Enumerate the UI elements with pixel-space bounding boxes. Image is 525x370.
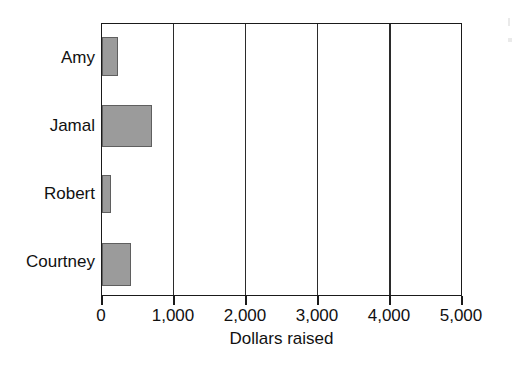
gridline-4000 xyxy=(389,24,390,295)
bar-courtney xyxy=(102,243,131,286)
xtick-mark-5000 xyxy=(461,296,463,305)
bar-amy xyxy=(102,37,118,76)
bar-chart: Amy Jamal Robert Courtney 0 1,000 2,000 … xyxy=(0,0,525,370)
category-axis: Amy Jamal Robert Courtney xyxy=(0,23,95,296)
category-label-jamal: Jamal xyxy=(50,116,95,135)
xtick-label-2000: 2,000 xyxy=(224,306,267,326)
scan-artifact xyxy=(508,18,510,26)
category-label-courtney: Courtney xyxy=(26,252,95,271)
xtick-mark-2000 xyxy=(245,296,247,305)
bar-robert xyxy=(102,175,111,213)
xtick-label-0: 0 xyxy=(96,306,105,326)
xtick-mark-0 xyxy=(101,296,103,305)
x-axis-title: Dollars raised xyxy=(101,329,462,349)
gridline-1000 xyxy=(173,24,174,295)
gridline-2000 xyxy=(245,24,246,295)
bar-jamal xyxy=(102,105,152,147)
plot-area xyxy=(101,23,462,296)
xtick-label-4000: 4,000 xyxy=(368,306,411,326)
category-label-amy: Amy xyxy=(61,48,95,67)
xtick-label-1000: 1,000 xyxy=(152,306,195,326)
gridline-3000 xyxy=(317,24,318,295)
xtick-mark-3000 xyxy=(317,296,319,305)
xtick-mark-4000 xyxy=(389,296,391,305)
category-label-robert: Robert xyxy=(44,184,95,203)
xtick-mark-1000 xyxy=(173,296,175,305)
scan-artifact xyxy=(508,38,512,42)
xtick-label-5000: 5,000 xyxy=(440,306,483,326)
xtick-label-3000: 3,000 xyxy=(296,306,339,326)
